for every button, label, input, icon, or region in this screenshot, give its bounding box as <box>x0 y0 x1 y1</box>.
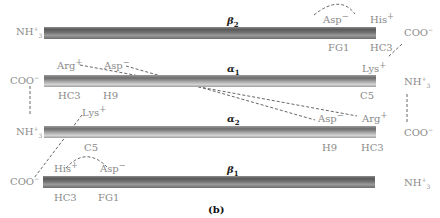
alpha1-chain-bar <box>44 75 376 87</box>
alpha2-chain-bar <box>44 126 376 138</box>
alpha2-lys-residue: Lys+ <box>82 108 106 118</box>
beta1-his-residue: His+ <box>54 164 78 174</box>
beta1-hc3-position: HC3 <box>54 193 77 203</box>
hemoglobin-salt-bridge-diagram: NH+3 β2 Asp− His+ FG1 HC3 COO− Arg+ Asp−… <box>0 0 440 218</box>
alpha2-h9-position: H9 <box>322 143 337 153</box>
figure-caption: (b) <box>208 204 224 215</box>
beta1-chain-bar <box>43 176 375 188</box>
beta2-c-terminus: COO− <box>404 28 433 38</box>
beta1-label: β1 <box>227 165 239 175</box>
alpha1-arg-residue: Arg+ <box>57 61 82 71</box>
beta2-chain-bar-right <box>176 27 376 39</box>
beta2-asp-residue: Asp− <box>323 15 349 25</box>
alpha2-asp-residue: Asp− <box>318 114 344 124</box>
beta2-chain-bar <box>44 27 176 39</box>
beta2-his-residue: His+ <box>370 15 394 25</box>
alpha1-lys-residue: Lys+ <box>362 64 386 74</box>
alpha1-hc3-position: HC3 <box>58 91 81 101</box>
beta2-hc3-position: HC3 <box>370 43 393 53</box>
alpha2-n-terminus: NH+3 <box>16 127 42 137</box>
alpha2-hc3-position: HC3 <box>361 143 384 153</box>
line-alpha1-arg-alpha2-arg <box>80 65 357 116</box>
beta2-n-terminus: NH+3 <box>16 27 42 37</box>
alpha2-c-terminus: COO− <box>404 128 433 138</box>
alpha2-label: α2 <box>227 114 240 124</box>
alpha2-arg-residue: Arg+ <box>362 114 387 124</box>
alpha1-c5-position: C5 <box>360 91 374 101</box>
alpha1-c-terminus: COO− <box>10 76 39 86</box>
beta2-fg1-position: FG1 <box>328 43 349 53</box>
alpha1-label: α1 <box>227 64 240 74</box>
beta1-n-terminus: NH+3 <box>404 178 430 188</box>
alpha1-h9-position: H9 <box>103 91 118 101</box>
alpha1-asp-residue: Asp− <box>104 61 130 71</box>
beta1-asp-residue: Asp− <box>100 164 126 174</box>
beta1-fg1-position: FG1 <box>98 193 119 203</box>
beta2-label: β2 <box>227 16 239 26</box>
alpha1-n-terminus: NH+3 <box>404 77 430 87</box>
beta1-c-terminus: COO− <box>10 177 39 187</box>
alpha2-c5-position: C5 <box>84 143 98 153</box>
